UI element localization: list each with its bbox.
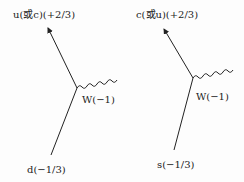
bottom-quark-label: d(−1/3) [27, 164, 66, 176]
outgoing-quark-arrow [48, 28, 77, 88]
diagram-right [164, 29, 233, 150]
outgoing-quark-arrow [164, 29, 193, 78]
w-boson-label: W(−1) [82, 94, 115, 106]
top-quark-label: c(或u)(+2/3) [136, 9, 198, 21]
incoming-quark-line [174, 78, 193, 150]
bottom-quark-label: s(−1/3) [157, 159, 194, 171]
w-boson-label: W(−1) [196, 91, 229, 103]
w-boson-wavy-line [193, 70, 233, 79]
incoming-quark-line [51, 88, 77, 155]
w-boson-wavy-line [77, 80, 117, 89]
diagram-left [48, 28, 117, 155]
top-quark-label: u(或c)(+2/3) [13, 9, 75, 21]
